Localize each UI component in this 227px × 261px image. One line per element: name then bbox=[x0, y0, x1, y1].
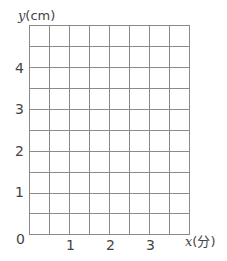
chart: y(cm) 4 3 2 1 0 1 2 3 x(分) bbox=[0, 0, 227, 261]
y-tick-4: 4 bbox=[15, 61, 24, 75]
y-tick-1: 1 bbox=[15, 185, 24, 199]
origin-label: 0 bbox=[16, 232, 25, 246]
x-tick-1: 1 bbox=[66, 238, 75, 252]
x-axis-title: x(分) bbox=[185, 235, 216, 249]
y-tick-2: 2 bbox=[15, 144, 24, 158]
x-tick-3: 3 bbox=[146, 238, 155, 252]
y-axis-title: y(cm) bbox=[18, 9, 55, 23]
grid bbox=[0, 0, 227, 261]
y-tick-3: 3 bbox=[15, 102, 24, 116]
x-tick-2: 2 bbox=[106, 238, 115, 252]
